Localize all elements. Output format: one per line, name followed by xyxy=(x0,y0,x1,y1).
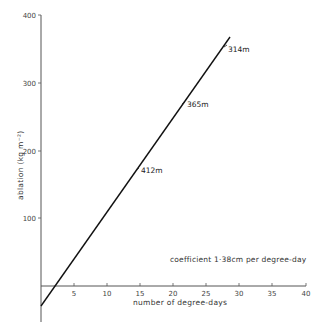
y-ticks: 400 300 200 100 xyxy=(23,12,41,223)
x-ticks: 5 10 15 20 25 30 35 40 xyxy=(72,283,311,298)
x-tick-label: 15 xyxy=(136,290,145,298)
coefficient-note: coefficient 1·38cm per degree-day xyxy=(170,255,307,264)
y-tick-label: 300 xyxy=(23,80,36,88)
point-label: 412m xyxy=(141,166,163,175)
x-tick-label: 20 xyxy=(169,290,178,298)
y-tick-label: 400 xyxy=(23,12,36,20)
x-tick-label: 10 xyxy=(103,290,112,298)
y-tick-label: 100 xyxy=(23,215,36,223)
x-tick-label: 30 xyxy=(235,290,244,298)
x-axis-label: number of degree-days xyxy=(133,298,227,307)
x-tick-label: 40 xyxy=(302,290,311,298)
point-label: 365m xyxy=(187,100,209,109)
x-tick-label: 5 xyxy=(72,290,76,298)
chart: 400 300 200 100 5 10 15 20 25 30 35 40 n… xyxy=(0,0,323,331)
x-tick-label: 35 xyxy=(268,290,277,298)
x-tick-label: 25 xyxy=(202,290,211,298)
data-points: 412m 365m 314m xyxy=(136,45,250,175)
point-label: 314m xyxy=(228,45,250,54)
y-axis-label: ablation (kg m⁻²) xyxy=(16,131,25,201)
regression-line xyxy=(41,37,230,306)
